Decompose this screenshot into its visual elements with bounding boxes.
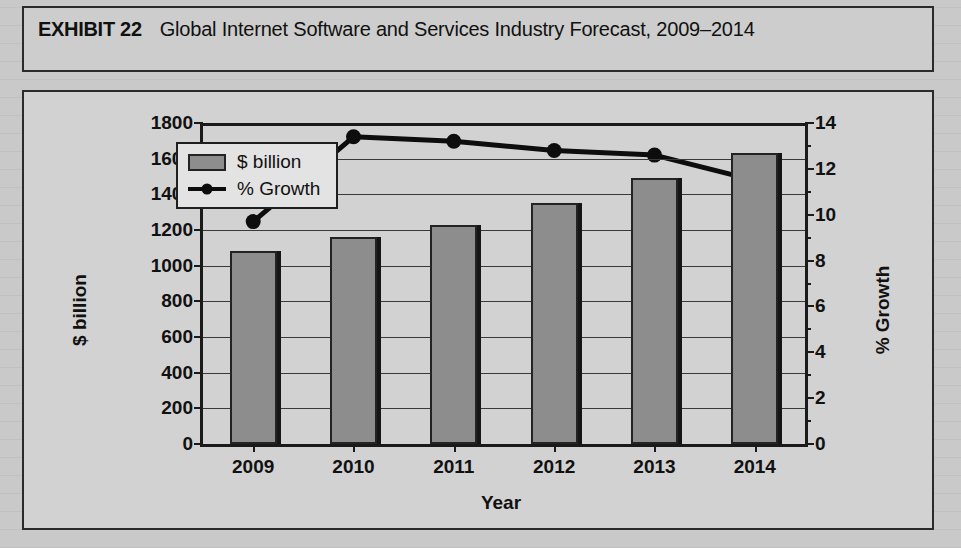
y-axis-left-tick bbox=[194, 443, 203, 445]
y-axis-right-tick bbox=[805, 443, 814, 445]
y-axis-left-tick bbox=[194, 229, 203, 231]
y-axis-right-tick bbox=[805, 122, 814, 124]
chart-legend: $ billion % Growth bbox=[176, 142, 338, 209]
y-axis-right-tick-label: 6 bbox=[815, 295, 826, 317]
y-axis-right-tick-label: 10 bbox=[815, 204, 836, 226]
y-axis-right-tick-label: 8 bbox=[815, 250, 826, 272]
y-axis-left-tick bbox=[194, 407, 203, 409]
x-axis-tick bbox=[253, 444, 255, 452]
y-axis-left-tick-label: 400 bbox=[161, 362, 193, 384]
bar-column[interactable]: 2012 bbox=[504, 123, 604, 444]
x-axis-tick-label: 2011 bbox=[433, 456, 474, 478]
y-axis-right-minor-tick bbox=[805, 374, 811, 376]
y-axis-right-minor-tick bbox=[805, 237, 811, 239]
x-axis-tick bbox=[654, 444, 656, 452]
bar-column[interactable]: 2013 bbox=[604, 123, 704, 444]
bar[interactable] bbox=[631, 178, 678, 444]
y-axis-left-tick bbox=[194, 336, 203, 338]
y-axis-left-tick-label: 600 bbox=[161, 326, 193, 348]
y-axis-right-title: % Growth bbox=[873, 266, 895, 355]
bar-column[interactable]: 2011 bbox=[404, 123, 504, 444]
y-axis-left-tick-label: 0 bbox=[182, 433, 193, 455]
y-axis-right-minor-tick bbox=[805, 145, 811, 147]
x-axis-tick-label: 2012 bbox=[533, 456, 575, 478]
y-axis-right-tick-label: 4 bbox=[815, 341, 826, 363]
bar[interactable] bbox=[531, 203, 578, 444]
legend-label-bar: $ billion bbox=[237, 151, 301, 173]
legend-item-bar: $ billion bbox=[188, 151, 320, 173]
y-axis-left-tick-label: 800 bbox=[161, 290, 193, 312]
y-axis-left-tick bbox=[194, 300, 203, 302]
legend-item-line: % Growth bbox=[188, 178, 320, 200]
legend-swatch-line-icon bbox=[188, 181, 226, 198]
y-axis-right-tick bbox=[805, 214, 814, 216]
y-axis-left-title: $ billion bbox=[69, 274, 91, 346]
x-axis-tick bbox=[755, 444, 757, 452]
y-axis-left-tick-label: 200 bbox=[161, 397, 193, 419]
plot-wrapper: $ billion % Growth Year 2009: 9.7%2010: … bbox=[24, 92, 932, 528]
bar[interactable] bbox=[330, 237, 377, 444]
y-axis-right-tick-label: 0 bbox=[815, 433, 826, 455]
y-axis-right-tick-label: 2 bbox=[815, 387, 826, 409]
legend-label-line: % Growth bbox=[237, 178, 320, 200]
bar[interactable] bbox=[430, 225, 477, 444]
x-axis-tick-label: 2014 bbox=[734, 456, 776, 478]
y-axis-left-tick-label: 1200 bbox=[151, 219, 193, 241]
y-axis-left-tick bbox=[194, 265, 203, 267]
x-axis-tick bbox=[353, 444, 355, 452]
y-axis-right-tick bbox=[805, 168, 814, 170]
x-axis-tick-label: 2010 bbox=[332, 456, 374, 478]
y-axis-right-tick bbox=[805, 260, 814, 262]
y-axis-right-tick bbox=[805, 351, 814, 353]
y-axis-right-tick bbox=[805, 305, 814, 307]
bar[interactable] bbox=[230, 251, 277, 444]
bar-column[interactable]: 2014 bbox=[705, 123, 805, 444]
y-axis-left-tick-label: 1000 bbox=[151, 255, 193, 277]
x-axis-tick bbox=[554, 444, 556, 452]
y-axis-left-tick bbox=[194, 122, 203, 124]
y-axis-right-minor-tick bbox=[805, 283, 811, 285]
x-axis-tick-label: 2013 bbox=[633, 456, 675, 478]
y-axis-right-tick-label: 14 bbox=[815, 112, 836, 134]
exhibit-number: EXHIBIT 22 bbox=[38, 17, 160, 42]
y-axis-left-tick-label: 1800 bbox=[151, 112, 193, 134]
x-axis-tick-label: 2009 bbox=[232, 456, 274, 478]
y-axis-right-tick-label: 12 bbox=[815, 158, 836, 180]
x-axis-title: Year bbox=[200, 492, 802, 514]
chart-container: $ billion % Growth Year 2009: 9.7%2010: … bbox=[22, 90, 934, 530]
exhibit-header: EXHIBIT 22 Global Internet Software and … bbox=[22, 6, 934, 72]
legend-swatch-bar-icon bbox=[188, 154, 226, 171]
y-axis-left-tick bbox=[194, 372, 203, 374]
x-axis-tick bbox=[454, 444, 456, 452]
exhibit-title: Global Internet Software and Services In… bbox=[160, 17, 755, 42]
y-axis-right-minor-tick bbox=[805, 191, 811, 193]
y-axis-right-minor-tick bbox=[805, 420, 811, 422]
y-axis-right-tick bbox=[805, 397, 814, 399]
y-axis-right-minor-tick bbox=[805, 328, 811, 330]
bar[interactable] bbox=[731, 153, 778, 444]
